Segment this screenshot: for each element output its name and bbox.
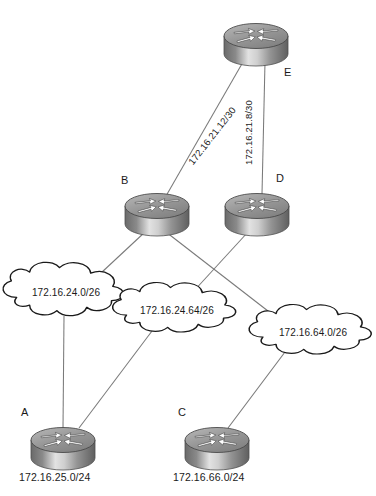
link-E-B <box>166 62 243 196</box>
link-D-cloud2 <box>192 232 248 293</box>
link-lines <box>63 62 288 428</box>
router-label-D: D <box>276 172 284 184</box>
link-C-cloud3 <box>228 348 288 428</box>
link-A-cloud1 <box>63 316 64 428</box>
router-E <box>224 24 288 67</box>
router-label-E: E <box>284 66 292 78</box>
link-A-cloud2 <box>79 331 152 428</box>
router-caption-C: 172.16.66.0/24 <box>173 471 244 483</box>
diagram-canvas <box>0 0 376 496</box>
router-label-C: C <box>178 406 186 418</box>
router-A <box>31 428 95 471</box>
link-E-D <box>262 62 265 194</box>
link-label-E-D: 172.16.21.8/30 <box>243 100 254 165</box>
router-D <box>225 194 289 237</box>
link-B-cloud1 <box>101 232 145 273</box>
router-caption-A: 172.16.25.0/24 <box>19 471 90 483</box>
cloud-label-1: 172.16.24.0/26 <box>16 287 116 298</box>
router-label-B: B <box>121 174 129 186</box>
cloud-label-3: 172.16.64.0/26 <box>263 327 363 338</box>
router-C <box>185 428 249 471</box>
router-label-A: A <box>21 406 29 418</box>
cloud-label-2: 172.16.24.64/26 <box>127 305 227 316</box>
router-B <box>125 194 189 237</box>
network-topology-diagram: E B D A C 172.16.25.0/24 172.16.66.0/24 … <box>0 0 376 496</box>
